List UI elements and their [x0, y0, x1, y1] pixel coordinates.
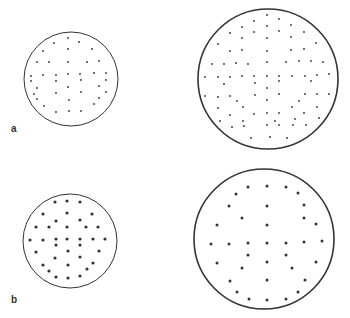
dot — [254, 94, 256, 96]
dot — [266, 242, 269, 245]
dot — [98, 97, 100, 99]
dot — [78, 200, 81, 203]
dot — [266, 279, 269, 282]
dot — [236, 291, 239, 294]
dot — [78, 237, 81, 240]
dot — [241, 49, 243, 51]
dot — [33, 93, 35, 95]
dot — [242, 120, 244, 122]
dot — [30, 80, 32, 82]
dot — [67, 73, 69, 75]
dot — [247, 186, 250, 189]
dot — [236, 100, 238, 102]
dot — [247, 242, 250, 245]
dot — [286, 137, 288, 139]
dot — [55, 74, 57, 76]
dot — [303, 204, 306, 207]
dot — [278, 124, 280, 126]
dot — [266, 185, 269, 188]
dot — [34, 225, 37, 228]
dot — [304, 93, 306, 95]
dot — [322, 61, 324, 63]
circle-outline — [198, 9, 338, 149]
dot — [78, 255, 81, 258]
dot — [278, 75, 280, 77]
dot — [98, 85, 100, 87]
dot — [211, 63, 213, 65]
dot — [310, 60, 312, 62]
dot — [303, 31, 305, 33]
dot — [266, 224, 269, 227]
dot — [223, 63, 225, 65]
dot — [47, 225, 50, 228]
dot — [241, 26, 243, 28]
dot — [80, 91, 82, 93]
dot — [90, 212, 93, 215]
circle-outline — [194, 169, 334, 309]
dot — [67, 48, 69, 50]
dot — [241, 267, 244, 270]
dot — [79, 73, 81, 75]
dot — [47, 269, 50, 272]
dot — [294, 118, 296, 120]
dot — [310, 80, 312, 82]
dot — [315, 261, 318, 264]
dot — [285, 254, 288, 257]
dot — [66, 276, 69, 279]
dot — [66, 249, 69, 252]
dot — [231, 126, 233, 128]
dot — [298, 60, 300, 62]
dot — [68, 110, 70, 112]
dot — [278, 30, 280, 32]
dot — [290, 49, 292, 51]
figure: a b — [0, 0, 350, 318]
dot — [229, 95, 231, 97]
dot — [30, 75, 32, 77]
dot — [48, 61, 50, 63]
dot — [105, 72, 107, 74]
dot — [85, 267, 88, 270]
dot — [328, 93, 330, 95]
dot — [42, 50, 44, 52]
dot — [241, 37, 243, 39]
dot — [297, 192, 300, 195]
dot — [266, 99, 268, 101]
dot — [217, 76, 219, 78]
circle-outline — [23, 194, 117, 288]
dot — [67, 86, 69, 88]
panel-a-small-circle — [24, 32, 118, 126]
dot — [266, 50, 268, 52]
dot — [41, 238, 44, 241]
dot — [290, 24, 292, 26]
dot — [55, 80, 57, 82]
panel-label-b: b — [11, 295, 17, 305]
dot — [266, 25, 268, 27]
dot — [204, 76, 206, 78]
dot — [78, 243, 81, 246]
dot — [229, 76, 231, 78]
dot — [53, 42, 55, 44]
dot — [266, 87, 268, 89]
dot — [91, 237, 94, 240]
dot — [303, 217, 306, 220]
dot — [65, 237, 68, 240]
dot — [274, 120, 276, 122]
dot — [229, 114, 231, 116]
dot — [235, 193, 238, 196]
dot — [96, 225, 99, 228]
dot — [316, 106, 318, 108]
panel-a-large-circle — [198, 9, 338, 149]
dot — [253, 31, 255, 33]
dot — [43, 105, 45, 107]
dot — [316, 93, 318, 95]
dot — [80, 110, 82, 112]
dot — [223, 83, 225, 85]
dot — [36, 87, 38, 89]
dot — [105, 79, 107, 81]
dot — [68, 99, 70, 101]
dot — [229, 32, 231, 34]
dot — [93, 72, 95, 74]
dot — [235, 62, 237, 64]
dot — [316, 74, 318, 76]
dot — [98, 60, 100, 62]
